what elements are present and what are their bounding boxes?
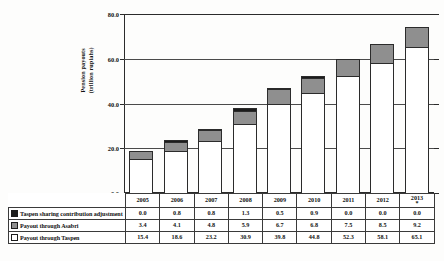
legend-swatch-icon bbox=[11, 234, 18, 241]
x-axis-label: 2013* bbox=[400, 194, 434, 208]
table-cell: 4.1 bbox=[160, 220, 194, 232]
table-cell: 18.6 bbox=[160, 232, 194, 244]
table-cell: 8.5 bbox=[366, 220, 400, 232]
y-axis-tick-right bbox=[434, 14, 439, 15]
stacked-bar[interactable] bbox=[267, 88, 291, 193]
bar-segment bbox=[405, 47, 429, 193]
stacked-bar[interactable] bbox=[129, 151, 153, 193]
x-axis-label: 2011 bbox=[331, 194, 365, 208]
table-cell: 58.1 bbox=[366, 232, 400, 244]
bar-group bbox=[124, 14, 434, 193]
stacked-bar[interactable] bbox=[405, 27, 429, 193]
stacked-bar[interactable] bbox=[370, 44, 394, 193]
bar-segment bbox=[198, 141, 222, 193]
data-table: 200520062007200820092010201120122013*Tas… bbox=[8, 193, 435, 244]
bar-segment bbox=[336, 59, 360, 76]
bar-slot bbox=[365, 14, 399, 193]
legend-item[interactable]: Payout through Taspen bbox=[9, 232, 126, 244]
legend-swatch-icon bbox=[11, 222, 18, 229]
y-axis-title-line2: (trillion rupiahs) bbox=[87, 47, 94, 93]
table-cell: 39.8 bbox=[263, 232, 297, 244]
table-cell: 52.3 bbox=[331, 232, 365, 244]
legend-item[interactable]: Payout through Asabri bbox=[9, 220, 126, 232]
bar-segment bbox=[198, 130, 222, 141]
y-axis-tick-right bbox=[434, 104, 439, 105]
bar-segment bbox=[129, 159, 153, 193]
bar-segment bbox=[233, 111, 257, 124]
table-cell: 0.5 bbox=[263, 208, 297, 220]
table-cell: 3.4 bbox=[126, 220, 160, 232]
y-axis-label: 20.0 bbox=[108, 145, 119, 152]
bar-segment bbox=[370, 44, 394, 63]
bar-slot bbox=[124, 14, 158, 193]
table-cell: 6.7 bbox=[263, 220, 297, 232]
bar-slot bbox=[331, 14, 365, 193]
y-axis-label: 60.0 bbox=[108, 55, 119, 62]
stacked-bar[interactable] bbox=[233, 108, 257, 193]
bar-segment bbox=[164, 151, 188, 193]
stacked-bar[interactable] bbox=[301, 76, 325, 193]
y-axis-label: 80.0 bbox=[108, 11, 119, 18]
table-corner-cell bbox=[9, 194, 126, 208]
table-cell: 5.9 bbox=[228, 220, 262, 232]
y-axis-label: 40.0 bbox=[108, 100, 119, 107]
y-axis-title-line1: Pension payouts bbox=[79, 48, 86, 92]
y-axis-tick-right bbox=[434, 59, 439, 60]
x-axis-label: 2007 bbox=[194, 194, 228, 208]
table-cell: 0.0 bbox=[331, 208, 365, 220]
bar-segment bbox=[370, 63, 394, 193]
x-axis-label: 2006 bbox=[160, 194, 194, 208]
legend-swatch-icon bbox=[11, 210, 18, 217]
bar-slot bbox=[400, 14, 434, 193]
table-cell: 0.8 bbox=[194, 208, 228, 220]
table-cell: 0.0 bbox=[400, 208, 434, 220]
table-row: Payout through Taspen15.418.623.230.939.… bbox=[9, 232, 435, 244]
bar-slot bbox=[193, 14, 227, 193]
plot-area: 0.020.040.060.080.0 bbox=[124, 14, 434, 193]
legend-item[interactable]: Taspen sharing contribution adjustment bbox=[9, 208, 126, 220]
table-cell: 0.0 bbox=[126, 208, 160, 220]
bar-segment bbox=[129, 151, 153, 159]
bar-segment bbox=[301, 78, 325, 93]
table-cell: 0.0 bbox=[366, 208, 400, 220]
table-cell: 9.2 bbox=[400, 220, 434, 232]
bar-slot bbox=[296, 14, 330, 193]
bar-slot bbox=[158, 14, 192, 193]
table-cell: 23.2 bbox=[194, 232, 228, 244]
x-axis-label: 2012 bbox=[366, 194, 400, 208]
stacked-bar[interactable] bbox=[198, 129, 222, 193]
y-axis-title: Pension payouts (trillion rupiahs) bbox=[52, 28, 122, 104]
y-axis-tick-right bbox=[434, 193, 439, 194]
bar-segment bbox=[267, 104, 291, 193]
bar-slot bbox=[262, 14, 296, 193]
table-row-years: 200520062007200820092010201120122013* bbox=[9, 194, 435, 208]
table-cell: 0.8 bbox=[160, 208, 194, 220]
bar-segment bbox=[164, 142, 188, 151]
x-axis-label: 2008 bbox=[228, 194, 262, 208]
x-axis-label: 2005 bbox=[126, 194, 160, 208]
legend-label: Payout through Asabri bbox=[20, 223, 78, 229]
table-cell: 7.5 bbox=[331, 220, 365, 232]
legend-label: Payout through Taspen bbox=[20, 235, 79, 241]
y-axis-tick-right bbox=[434, 148, 439, 149]
x-axis-label: 2009 bbox=[263, 194, 297, 208]
stacked-bar[interactable] bbox=[336, 59, 360, 193]
table-row: Payout through Asabri3.44.14.85.96.76.87… bbox=[9, 220, 435, 232]
table-cell: 4.8 bbox=[194, 220, 228, 232]
bar-slot bbox=[227, 14, 261, 193]
table-cell: 44.8 bbox=[297, 232, 331, 244]
bar-segment bbox=[336, 76, 360, 193]
table-cell: 30.9 bbox=[228, 232, 262, 244]
bar-segment bbox=[405, 27, 429, 48]
table-cell: 0.9 bbox=[297, 208, 331, 220]
table-cell: 15.4 bbox=[126, 232, 160, 244]
bar-segment bbox=[233, 124, 257, 193]
table-cell: 6.8 bbox=[297, 220, 331, 232]
legend-label: Taspen sharing contribution adjustment bbox=[20, 211, 123, 217]
table-cell: 1.3 bbox=[228, 208, 262, 220]
stacked-bar[interactable] bbox=[164, 140, 188, 193]
table-row: Taspen sharing contribution adjustment0.… bbox=[9, 208, 435, 220]
table-cell: 65.1 bbox=[400, 232, 434, 244]
bar-segment bbox=[301, 93, 325, 193]
x-axis-label: 2010 bbox=[297, 194, 331, 208]
